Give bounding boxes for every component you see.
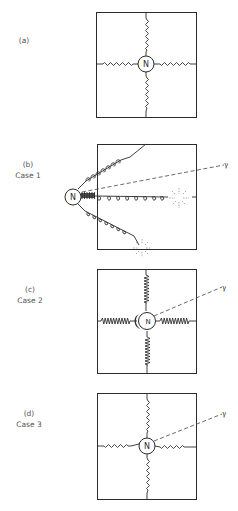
spring-b-lower bbox=[78, 204, 139, 245]
spring-a-top bbox=[146, 12, 149, 56]
spring-b-upper bbox=[78, 144, 146, 189]
nucleus-b-label: N bbox=[70, 193, 76, 202]
spring-d-bottom bbox=[147, 454, 150, 500]
nucleus-c-label: N bbox=[145, 318, 150, 326]
spring-a-left bbox=[96, 63, 138, 66]
spring-c-left bbox=[97, 318, 137, 324]
bond-break-burst-bottom bbox=[133, 239, 151, 257]
gamma-label-d: γ bbox=[222, 410, 226, 418]
spring-c-top bbox=[144, 269, 149, 311]
spring-c-bottom bbox=[145, 331, 150, 374]
gamma-ray-d bbox=[154, 414, 222, 441]
spring-a-bottom bbox=[146, 72, 149, 117]
gamma-ray-c bbox=[154, 287, 222, 316]
panel-a: N bbox=[96, 12, 197, 118]
gamma-label-b: γ bbox=[224, 161, 228, 169]
nucleus-d-label: N bbox=[144, 442, 150, 451]
spring-b-compressed bbox=[81, 192, 95, 199]
spring-a-right bbox=[154, 63, 197, 66]
gamma-label-c: γ bbox=[222, 284, 226, 292]
spring-d-top bbox=[147, 393, 150, 438]
panel-c: γ N bbox=[97, 269, 226, 374]
bond-break-burst-right bbox=[169, 188, 189, 208]
panel-d: γ N bbox=[97, 393, 226, 500]
spring-d-right bbox=[155, 446, 197, 449]
nucleus-a-label: N bbox=[143, 60, 149, 69]
diagram-canvas: N bbox=[0, 0, 238, 511]
spring-c-right bbox=[156, 318, 197, 324]
spring-b-middle bbox=[95, 196, 197, 200]
panel-b: γ N bbox=[65, 144, 228, 257]
spring-d-left bbox=[97, 444, 139, 448]
